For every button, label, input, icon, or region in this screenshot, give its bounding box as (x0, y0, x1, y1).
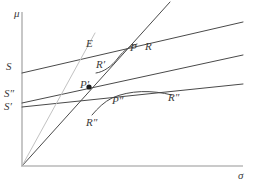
curve-label-r2-left: R″ (86, 117, 97, 128)
intercept-label-s2: S″ (4, 88, 14, 99)
point-label-e: E (86, 38, 93, 49)
intercept-label-s: S (6, 61, 12, 72)
x-axis-label: σ (238, 170, 243, 181)
y-axis-label: μ (14, 8, 20, 19)
ray-light (22, 33, 95, 166)
axes-group (22, 12, 243, 166)
curve-label-r2-right: R″ (168, 92, 179, 103)
curve-label-r: R (145, 41, 152, 52)
curve-label-r-mid: R′ (96, 59, 105, 70)
intercept-label-s1: S′ (4, 101, 12, 112)
mean-variance-diagram: μσSS″S′EPRR′P′P″R″R″ (0, 0, 254, 187)
lines-group (22, 2, 243, 166)
diagram-canvas (0, 0, 254, 187)
ray-efficient (22, 2, 170, 166)
point-label-p1: P′ (80, 79, 89, 90)
point-label-p2: P″ (112, 95, 123, 106)
point-label-p: P (130, 42, 137, 53)
